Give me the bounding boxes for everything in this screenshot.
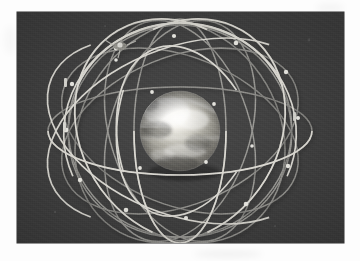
vignette-overlay xyxy=(17,12,344,243)
page-canvas xyxy=(0,0,360,261)
photograph xyxy=(17,12,344,243)
margin-smudge xyxy=(194,250,262,258)
margin-smudge xyxy=(4,26,16,54)
